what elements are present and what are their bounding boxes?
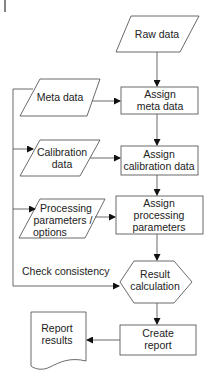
node-processing-line3: options (33, 226, 67, 238)
flowchart-diagram: Raw data Assign meta data Meta data Cali… (0, 0, 213, 379)
node-result-calculation: Result calculation (120, 261, 192, 303)
node-raw-data: Raw data (116, 16, 199, 52)
node-report-results-line2: results (42, 334, 73, 346)
node-assign-processing-line3: parameters (132, 221, 185, 233)
node-calibration-data-line1: Calibration (37, 146, 87, 158)
node-assign-processing-line2: processing (134, 209, 185, 221)
node-raw-data-label: Raw data (135, 28, 180, 40)
node-assign-calibration-data: Assign calibration data (121, 146, 198, 175)
node-processing-parameters: Processing parameters / options (19, 199, 105, 238)
feedback-label: Check consistency (22, 265, 110, 277)
edge-feedback-loop (13, 89, 119, 286)
node-report-results-line1: Report (41, 322, 73, 334)
node-create-report-line2: report (144, 339, 172, 351)
node-processing-line2: parameters / (34, 214, 93, 226)
node-assign-meta-data: Assign meta data (121, 87, 198, 114)
node-calibration-data: Calibration data (20, 140, 100, 176)
node-create-report: Create report (120, 325, 196, 355)
node-assign-processing-parameters: Assign processing parameters (116, 196, 203, 234)
node-create-report-line1: Create (142, 327, 174, 339)
node-report-results: Report results (31, 312, 86, 369)
node-meta-data: Meta data (20, 79, 100, 116)
node-result-calc-line2: calculation (130, 280, 180, 292)
node-assign-calibration-line2: calibration data (123, 160, 194, 172)
node-assign-meta-data-line2: meta data (137, 100, 184, 112)
node-assign-meta-data-line1: Assign (144, 88, 176, 100)
node-assign-processing-line1: Assign (143, 197, 175, 209)
node-assign-calibration-line1: Assign (143, 148, 175, 160)
node-result-calc-line1: Result (140, 268, 170, 280)
node-meta-data-label: Meta data (37, 91, 84, 103)
node-processing-line1: Processing (40, 202, 92, 214)
node-calibration-data-line2: data (52, 158, 73, 170)
